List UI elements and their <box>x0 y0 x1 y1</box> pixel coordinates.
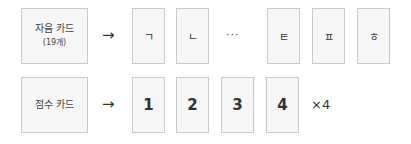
consonant-cards-count: (19개) <box>43 36 66 50</box>
consonant-card: ㅌ <box>267 8 300 64</box>
consonant-cards-label-box: 자음 카드 (19개) <box>21 8 88 64</box>
score-card: 3 <box>221 77 254 133</box>
score-card: 1 <box>132 77 165 133</box>
consonant-card: ㄱ <box>132 8 165 64</box>
consonant-cards-label: 자음 카드 <box>35 22 74 36</box>
multiplier-label: ×4 <box>311 97 330 112</box>
consonant-card: ㅎ <box>357 8 390 64</box>
arrow-right-icon: → <box>102 95 115 113</box>
score-cards-label-box: 점수 카드 <box>21 77 88 133</box>
arrow-right-icon: → <box>102 26 115 44</box>
consonant-card: ㄴ <box>176 8 209 64</box>
score-card: 2 <box>176 77 209 133</box>
score-card: 4 <box>266 77 299 133</box>
score-cards-label: 점수 카드 <box>35 98 74 112</box>
ellipsis: ··· <box>226 28 240 41</box>
consonant-card: ㅍ <box>312 8 345 64</box>
